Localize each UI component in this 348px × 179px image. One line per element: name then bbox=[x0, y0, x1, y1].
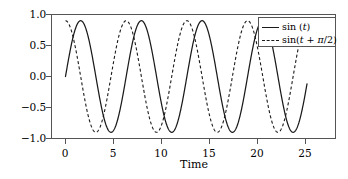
legend-box: sin (t) sin(t + π/2) bbox=[258, 17, 336, 47]
legend-label-sin-t-plus-pi-over-2: sin(t + π/2) bbox=[282, 35, 337, 45]
legend-label-sin-t-suffix: ) bbox=[307, 21, 311, 32]
ytick-label-1-wrap: 1.0 bbox=[4, 9, 46, 19]
ytick-label-5-wrap: −1.0 bbox=[4, 133, 46, 143]
ytick-mark-4 bbox=[46, 107, 51, 108]
ytick-label-3: 0.0 bbox=[12, 71, 46, 81]
ytick-mark-2 bbox=[46, 45, 51, 46]
legend-label-sin-t-prefix: sin ( bbox=[282, 21, 303, 32]
ytick-label-3-wrap: 0.0 bbox=[4, 71, 46, 81]
legend-label-sin-t: sin (t) bbox=[282, 22, 310, 32]
figure-canvas: 1.0 0.5 0.0 −0.5 −1.0 0 5 10 15 20 25 Ti… bbox=[0, 0, 348, 179]
legend-label-2-prefix: sin( bbox=[282, 34, 300, 45]
legend-entry-sin-t-plus-pi-over-2: sin(t + π/2) bbox=[262, 34, 332, 46]
legend-entry-sin-t: sin (t) bbox=[262, 21, 332, 33]
legend-label-2-suffix: /2) bbox=[324, 34, 337, 45]
ytick-mark-1 bbox=[46, 14, 51, 15]
legend-line-sample-solid bbox=[262, 23, 279, 31]
ytick-label-5: −1.0 bbox=[12, 133, 46, 143]
ytick-label-1: 1.0 bbox=[12, 9, 46, 19]
ytick-mark-5 bbox=[46, 138, 51, 139]
ytick-label-2: 0.5 bbox=[12, 40, 46, 50]
ytick-label-2-wrap: 0.5 bbox=[4, 40, 46, 50]
x-axis-label: Time bbox=[0, 158, 348, 171]
ytick-label-4-wrap: −0.5 bbox=[4, 102, 46, 112]
legend-line-sample-dashed bbox=[262, 36, 279, 44]
ytick-label-4: −0.5 bbox=[12, 102, 46, 112]
legend-label-2-mid: + bbox=[304, 34, 318, 45]
ytick-mark-3 bbox=[46, 76, 51, 77]
